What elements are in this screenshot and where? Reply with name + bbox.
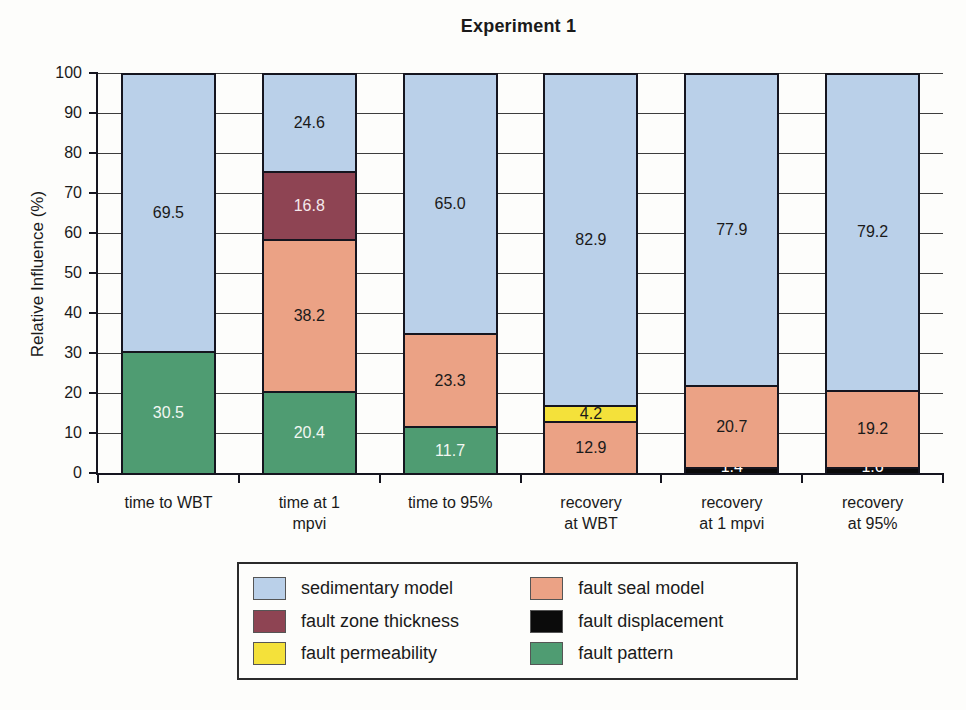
x-axis-tick: [379, 473, 381, 483]
legend-swatch: [530, 577, 563, 600]
x-axis-tick: [801, 473, 803, 483]
legend-swatch: [253, 610, 286, 633]
legend-swatch: [530, 642, 563, 665]
bar-segment-fault-seal-model: 20.7: [684, 385, 779, 468]
segment-value-label: 20.4: [294, 425, 325, 441]
y-axis-tick: [89, 392, 98, 394]
gridline-y-10: [98, 433, 943, 434]
legend-label: fault zone thickness: [301, 611, 459, 632]
category-label: time to WBT: [98, 493, 239, 514]
bar-segment-fault-pattern: 30.5: [121, 351, 216, 473]
y-axis-tick-label: 90: [34, 104, 82, 122]
legend-swatch: [253, 642, 286, 665]
category-label: recoveryat WBT: [521, 493, 662, 535]
y-axis-tick-label: 70: [34, 184, 82, 202]
bar-segment-fault-displacement: 1.4: [684, 467, 779, 473]
segment-value-label: 19.2: [857, 421, 888, 437]
category-label: time to 95%: [380, 493, 521, 514]
segment-value-label: 77.9: [716, 222, 747, 238]
segment-value-label: 65.0: [435, 196, 466, 212]
legend-item-fault-displacement: fault displacement: [530, 610, 786, 633]
y-axis-tick: [89, 272, 98, 274]
bar-segment-fault-zone-thickness: 16.8: [262, 171, 357, 238]
legend-item-fault-permeability: fault permeability: [253, 642, 530, 665]
legend-item-fault-zone-thickness: fault zone thickness: [253, 610, 530, 633]
segment-value-label: 12.9: [575, 440, 606, 456]
category-label: recoveryat 1 mpvi: [661, 493, 802, 535]
legend-label: fault permeability: [301, 643, 437, 664]
segment-value-label: 16.8: [294, 198, 325, 214]
gridline-y-70: [98, 193, 943, 194]
y-axis-tick: [89, 232, 98, 234]
legend-label: fault displacement: [578, 611, 723, 632]
y-axis-tick-label: 0: [34, 464, 82, 482]
legend-swatch: [530, 610, 563, 633]
bar-segment-sedimentary-model: 77.9: [684, 73, 779, 385]
legend-swatch: [253, 577, 286, 600]
plot-area: 010203040506070809010030.569.5time to WB…: [96, 73, 943, 475]
y-axis-tick-label: 40: [34, 304, 82, 322]
y-axis-tick: [89, 192, 98, 194]
segment-value-label: 69.5: [153, 205, 184, 221]
legend-item-fault-pattern: fault pattern: [530, 642, 786, 665]
y-axis-tick-label: 20: [34, 384, 82, 402]
segment-value-label: 82.9: [575, 232, 606, 248]
category-label: time at 1mpvi: [239, 493, 380, 535]
gridline-y-40: [98, 313, 943, 314]
x-axis-tick: [942, 473, 944, 483]
gridline-y-90: [98, 113, 943, 114]
bar-segment-sedimentary-model: 69.5: [121, 73, 216, 351]
legend-label: sedimentary model: [301, 578, 453, 599]
segment-value-label: 20.7: [716, 419, 747, 435]
y-axis-tick: [89, 72, 98, 74]
y-axis-tick-label: 30: [34, 344, 82, 362]
segment-value-label: 11.7: [435, 443, 465, 459]
y-axis-tick: [89, 352, 98, 354]
y-axis-tick-label: 50: [34, 264, 82, 282]
segment-value-label: 23.3: [435, 373, 466, 389]
legend-label: fault pattern: [578, 643, 673, 664]
y-axis-tick: [89, 312, 98, 314]
x-axis-tick: [660, 473, 662, 483]
segment-value-label: 24.6: [294, 115, 325, 131]
x-axis-tick: [97, 473, 99, 483]
legend-label: fault seal model: [578, 578, 704, 599]
bar-segment-sedimentary-model: 79.2: [825, 73, 920, 390]
bar-segment-fault-pattern: 20.4: [262, 391, 357, 473]
bar-segment-fault-permeability: 4.2: [543, 405, 638, 422]
segment-value-label: 79.2: [857, 224, 888, 240]
y-axis-tick-label: 10: [34, 424, 82, 442]
gridline-y-30: [98, 353, 943, 354]
bar-segment-fault-seal-model: 23.3: [403, 333, 498, 426]
y-axis-tick-label: 60: [34, 224, 82, 242]
gridline-y-50: [98, 273, 943, 274]
segment-value-label: 38.2: [294, 308, 325, 324]
legend-item-fault-seal-model: fault seal model: [530, 577, 786, 600]
chart-title: Experiment 1: [96, 16, 941, 37]
y-axis-tick: [89, 152, 98, 154]
bar-segment-sedimentary-model: 82.9: [543, 73, 638, 405]
gridline-y-20: [98, 393, 943, 394]
y-axis-tick: [89, 112, 98, 114]
bar-segment-fault-displacement: 1.6: [825, 467, 920, 473]
x-axis-tick: [520, 473, 522, 483]
bar-segment-sedimentary-model: 24.6: [262, 73, 357, 171]
category-label: recoveryat 95%: [802, 493, 943, 535]
y-axis-tick-label: 80: [34, 144, 82, 162]
y-axis-tick-label: 100: [34, 64, 82, 82]
x-axis-tick: [238, 473, 240, 483]
bar-segment-sedimentary-model: 65.0: [403, 73, 498, 333]
segment-value-label: 4.2: [580, 406, 602, 422]
legend-box: sedimentary modelfault seal modelfault z…: [237, 562, 798, 680]
gridline-y-100: [98, 73, 943, 74]
segment-value-label: 30.5: [153, 405, 184, 421]
legend-item-sedimentary-model: sedimentary model: [253, 577, 530, 600]
bar-segment-fault-seal-model: 19.2: [825, 390, 920, 467]
bar-segment-fault-pattern: 11.7: [403, 426, 498, 473]
figure-stacked-bar-chart: Experiment 1 Relative Influence (%) 0102…: [0, 0, 966, 710]
bar-segment-fault-seal-model: 38.2: [262, 239, 357, 392]
bar-segment-fault-seal-model: 12.9: [543, 421, 638, 473]
y-axis-tick: [89, 432, 98, 434]
gridline-y-60: [98, 233, 943, 234]
gridline-y-80: [98, 153, 943, 154]
